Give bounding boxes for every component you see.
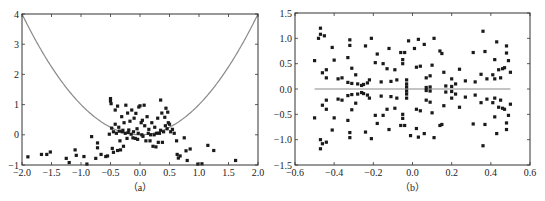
data-point: [160, 111, 163, 114]
y-tick-label: 0.5: [280, 58, 293, 69]
data-point: [415, 66, 418, 69]
data-point: [481, 30, 484, 33]
data-point: [395, 97, 398, 100]
data-point: [474, 80, 477, 83]
data-point: [368, 97, 371, 100]
data-point: [325, 108, 328, 111]
data-point: [166, 111, 169, 114]
data-point: [348, 38, 351, 41]
data-point: [168, 123, 171, 126]
x-tick-label: 0.5: [163, 167, 176, 178]
y-tick-label: 3: [14, 39, 19, 50]
data-point: [370, 137, 373, 140]
data-point: [429, 101, 432, 104]
data-point: [409, 134, 412, 137]
data-point: [206, 144, 209, 147]
data-point: [382, 114, 385, 117]
subfigure-caption: （b）: [400, 182, 425, 193]
data-point: [493, 97, 496, 100]
data-point: [415, 127, 418, 130]
data-point: [405, 89, 408, 92]
data-point: [317, 37, 320, 40]
figure: −2.0−1.5−1.0−0.50.00.51.01.52.0−101234（a…: [0, 0, 545, 201]
data-point: [395, 78, 398, 81]
data-point: [75, 154, 78, 157]
data-point: [156, 117, 159, 120]
data-point: [122, 121, 125, 124]
data-point: [364, 130, 367, 133]
data-point: [499, 76, 502, 79]
y-tick-label: 1.5: [280, 8, 293, 19]
x-tick-label: 0.0: [134, 167, 147, 178]
data-point: [176, 153, 179, 156]
data-point: [450, 77, 453, 80]
data-point: [122, 145, 125, 148]
data-point: [440, 123, 443, 126]
axes-frame: [22, 14, 258, 165]
data-point: [393, 68, 396, 71]
data-point: [366, 81, 369, 84]
data-point: [419, 109, 422, 112]
data-point: [485, 77, 488, 80]
data-point: [173, 132, 176, 135]
data-point: [348, 136, 351, 139]
data-point: [425, 76, 428, 79]
data-point: [94, 157, 97, 160]
data-point: [458, 68, 461, 71]
y-tick-label: 1: [14, 99, 19, 110]
x-tick-label: −1.0: [72, 167, 90, 178]
data-point: [493, 77, 496, 80]
data-point: [116, 149, 119, 152]
data-point: [483, 50, 486, 53]
data-point: [380, 80, 383, 83]
data-point: [175, 139, 178, 142]
data-point: [432, 37, 435, 40]
data-point: [505, 121, 508, 124]
data-point: [393, 107, 396, 110]
data-point: [186, 159, 189, 162]
data-point: [429, 89, 432, 92]
curve-line: [22, 14, 258, 135]
data-point: [106, 154, 109, 157]
data-point: [405, 85, 408, 88]
x-tick-label: 0.6: [524, 167, 537, 178]
data-point: [389, 95, 392, 98]
data-point: [346, 119, 349, 122]
data-point: [509, 103, 512, 106]
data-point: [497, 106, 500, 109]
data-point: [143, 124, 146, 127]
data-point: [509, 71, 512, 74]
x-tick-label: 1.0: [193, 167, 206, 178]
data-point: [321, 71, 324, 74]
data-point: [491, 73, 494, 76]
data-point: [159, 129, 162, 132]
data-point: [333, 116, 336, 119]
data-point: [68, 161, 71, 164]
data-point: [417, 136, 420, 139]
x-tick-label: 2.0: [252, 167, 265, 178]
data-point: [189, 147, 192, 150]
data-point: [157, 141, 160, 144]
data-point: [164, 124, 167, 127]
data-point: [401, 58, 404, 61]
data-point: [364, 44, 367, 47]
x-tick-label: −0.2: [364, 167, 382, 178]
data-point: [356, 82, 359, 85]
data-point: [385, 67, 388, 70]
data-point: [479, 101, 482, 104]
data-point: [109, 102, 112, 105]
data-point: [132, 130, 135, 133]
data-point: [497, 68, 500, 71]
data-point: [505, 44, 508, 47]
data-point: [124, 132, 127, 135]
data-point: [472, 122, 475, 125]
data-point: [99, 153, 102, 156]
data-point: [133, 117, 136, 120]
data-point: [166, 127, 169, 130]
data-point: [118, 130, 121, 133]
data-point: [348, 44, 351, 47]
data-point: [376, 122, 379, 125]
data-point: [485, 98, 488, 101]
data-point: [450, 85, 453, 88]
data-point: [119, 148, 122, 151]
